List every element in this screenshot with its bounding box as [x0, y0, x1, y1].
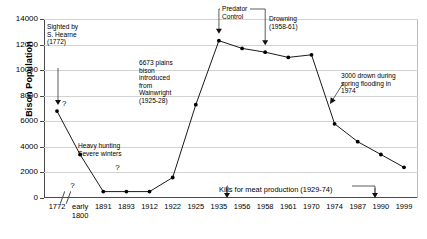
uncertainty-question-mark: ?: [115, 164, 119, 172]
bison-population-chart: Bison Population 02000400060008000100001…: [0, 0, 427, 239]
uncertainty-question-mark: ?: [70, 182, 74, 190]
y-axis-tick-label: 4000: [0, 143, 38, 151]
annotation-heavy-hunting: Heavy hunting Severe winters: [78, 142, 122, 157]
plot-right-border: [417, 19, 418, 198]
y-axis-tick: [40, 147, 44, 148]
plot-area: [44, 19, 418, 198]
x-axis-tick-label: 1999: [390, 203, 418, 212]
y-axis-tick-label: 14000: [0, 15, 38, 23]
annotation-kills-for-meat: Kills for meat production (1929-74): [219, 186, 332, 195]
uncertainty-question-mark: ?: [62, 100, 66, 108]
annotation-hearne: Sighted by S. Hearne (1772): [47, 23, 78, 46]
y-axis-tick-label: 6000: [0, 117, 38, 125]
y-axis-tick: [40, 172, 44, 173]
y-axis-tick: [40, 198, 44, 199]
gridline: [44, 172, 418, 173]
y-axis-tick: [40, 45, 44, 46]
y-axis-tick-label: 8000: [0, 92, 38, 100]
y-axis-tick: [40, 121, 44, 122]
y-axis-tick-label: 0: [0, 194, 38, 202]
gridline: [44, 121, 418, 122]
annotation-wainwright: 6673 plains bison introduced from Wainwr…: [139, 59, 173, 105]
annotation-drowning: Drowning (1958-61): [269, 15, 298, 30]
y-axis-tick-label: 12000: [0, 41, 38, 49]
y-axis-tick-label: 2000: [0, 168, 38, 176]
y-axis-tick: [40, 70, 44, 71]
annotation-predator-control: Predator Control: [222, 5, 247, 20]
annotation-spring-flooding: 3000 drown during spring flooding in 197…: [341, 72, 396, 95]
y-axis-tick: [40, 19, 44, 20]
gridline: [44, 70, 418, 71]
y-axis-tick: [40, 96, 44, 97]
gridline: [44, 45, 418, 46]
gridline: [44, 96, 418, 97]
y-axis-tick-label: 10000: [0, 66, 38, 74]
